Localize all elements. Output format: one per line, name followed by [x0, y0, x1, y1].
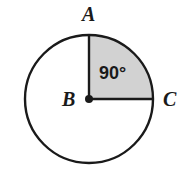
angle-measure-label: 90°: [99, 64, 126, 82]
point-label-b: B: [62, 89, 75, 109]
point-label-a: A: [82, 4, 95, 24]
center-point-dot: [85, 95, 93, 103]
circle-sector-diagram: [0, 0, 180, 179]
geometry-figure: A B C 90°: [0, 0, 180, 179]
point-label-c: C: [163, 89, 176, 109]
